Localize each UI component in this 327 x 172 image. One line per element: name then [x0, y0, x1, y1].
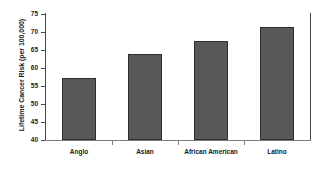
x-axis-category-label: Asian — [112, 149, 178, 156]
plot-right-border — [310, 13, 311, 141]
x-axis-category-label: Latino — [244, 149, 310, 156]
bar — [62, 78, 96, 140]
bar — [260, 27, 294, 140]
x-tick-mark — [178, 141, 179, 145]
bar-chart-figure: Lifetime Cancer Risk (per 100,000) 40455… — [0, 0, 327, 172]
x-tick-mark — [112, 141, 113, 145]
bar — [194, 41, 228, 140]
y-axis-title: Lifetime Cancer Risk (per 100,000) — [14, 0, 28, 150]
x-axis-category-label: Anglo — [46, 149, 112, 156]
y-tick-label: 45 — [16, 119, 38, 126]
y-tick-label: 55 — [16, 83, 38, 90]
x-axis-category-label: African American — [178, 149, 244, 156]
y-axis-line — [45, 13, 46, 141]
y-tick-label: 65 — [16, 47, 38, 54]
bar — [128, 54, 162, 140]
x-axis-line — [45, 140, 311, 141]
y-tick-label: 50 — [16, 101, 38, 108]
x-tick-mark — [244, 141, 245, 145]
y-tick-label: 40 — [16, 137, 38, 144]
y-tick-label: 75 — [16, 11, 38, 18]
y-tick-label: 70 — [16, 29, 38, 36]
y-tick-label: 60 — [16, 65, 38, 72]
